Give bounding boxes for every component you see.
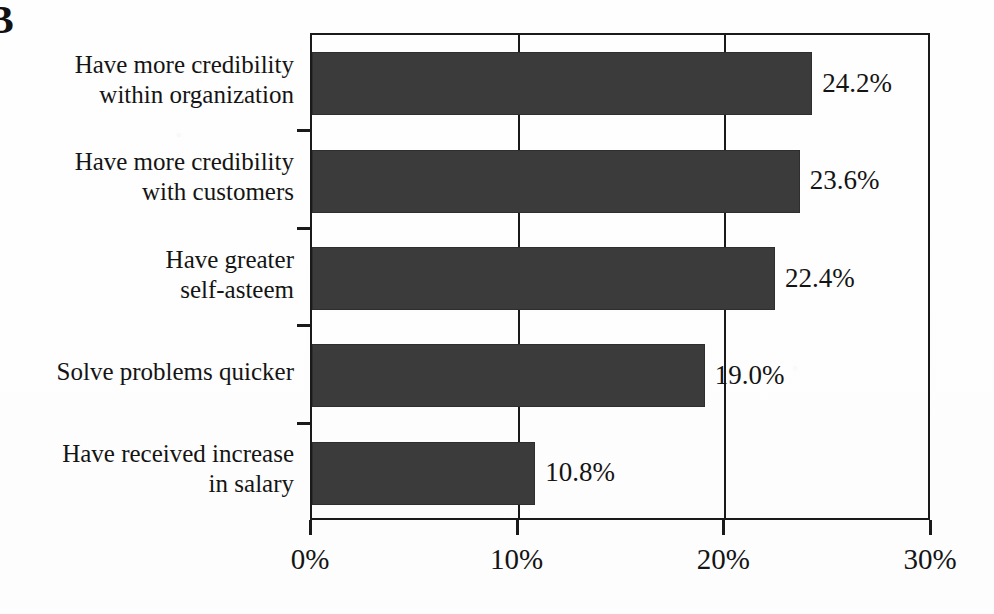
category-label: Have more credibilitywithin organization: [4, 50, 294, 110]
y-axis-tick: [297, 227, 310, 230]
category-label-line: Have more credibility: [4, 147, 294, 177]
bar-value-label: 10.8%: [545, 459, 615, 486]
bar-value-label: 23.6%: [810, 167, 880, 194]
x-axis-tick: [309, 520, 312, 535]
category-label-line: within organization: [4, 80, 294, 110]
category-label-line: with customers: [4, 177, 294, 207]
bar: [312, 150, 800, 213]
category-label-line: Have more credibility: [4, 50, 294, 80]
category-label: Solve problems quicker: [4, 357, 294, 387]
x-axis-tick-label: 0%: [291, 543, 330, 575]
bar-value-label: 19.0%: [715, 362, 785, 389]
y-axis-tick: [297, 129, 310, 132]
category-label: Have more credibilitywith customers: [4, 147, 294, 207]
x-axis-tick: [722, 520, 725, 535]
x-axis-tick-label: 10%: [490, 543, 543, 575]
category-label-line: Have received increase: [4, 439, 294, 469]
y-axis-tick: [297, 324, 310, 327]
bar: [312, 52, 812, 115]
bar: [312, 344, 705, 407]
x-axis-tick: [929, 520, 932, 535]
bar: [312, 442, 535, 505]
y-axis-tick: [297, 422, 310, 425]
x-axis-tick-label: 30%: [903, 543, 956, 575]
x-axis-tick-label: 20%: [697, 543, 750, 575]
category-label-line: Have greater: [4, 245, 294, 275]
x-axis-tick: [516, 520, 519, 535]
category-label-line: in salary: [4, 469, 294, 499]
category-label-group: Have more credibilitywithin organization…: [0, 0, 300, 614]
category-label-line: Solve problems quicker: [4, 357, 294, 387]
bar-value-label: 24.2%: [822, 70, 892, 97]
category-label: Have greaterself-asteem: [4, 245, 294, 305]
category-label-line: self-asteem: [4, 275, 294, 305]
category-label: Have received increasein salary: [4, 439, 294, 499]
bar: [312, 247, 775, 310]
plot-area: 24.2%23.6%22.4%19.0%10.8%: [310, 33, 930, 520]
bar-value-label: 22.4%: [785, 265, 855, 292]
